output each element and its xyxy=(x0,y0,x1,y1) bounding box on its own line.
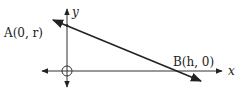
point-a-label: A(0, r) xyxy=(3,26,43,40)
point-b-label: B(h, 0) xyxy=(173,55,214,69)
y-axis-label: y xyxy=(71,5,79,19)
line-ab xyxy=(53,20,201,81)
point-a xyxy=(66,24,69,27)
diagram-canvas: y x A(0, r) B(h, 0) xyxy=(0,0,242,88)
x-axis-label: x xyxy=(228,64,235,78)
